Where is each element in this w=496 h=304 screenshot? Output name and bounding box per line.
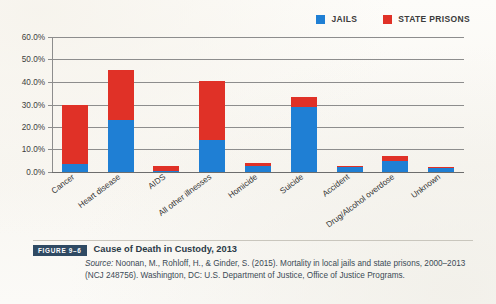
figure-source: Source: Noonan, M., Rohloff, H., & Ginde… bbox=[85, 258, 473, 283]
bar-slot bbox=[189, 37, 235, 172]
chart-legend: JAILS STATE PRISONS bbox=[0, 14, 496, 24]
source-line-1: Noonan, M., Rohloff, H., & Ginder, S. (2… bbox=[113, 259, 371, 268]
x-label-slot: All other illnesses bbox=[189, 174, 235, 222]
bar-segment-state-prisons bbox=[108, 70, 134, 121]
bar-segment-jails bbox=[291, 107, 317, 172]
y-tick bbox=[48, 172, 52, 173]
plot-area: 0.0% 10.0% 20.0% 30.0% 40.0% 50.0% 60.0% bbox=[52, 37, 464, 172]
stacked-bar[interactable] bbox=[199, 81, 225, 172]
x-label-slot: Suicide bbox=[281, 174, 327, 222]
bar-series-layer bbox=[52, 37, 464, 172]
stacked-bar[interactable] bbox=[291, 97, 317, 172]
figure-number-badge: FIGURE 9–6 bbox=[33, 245, 87, 256]
y-tick-label: 10.0% bbox=[22, 145, 45, 154]
bar-slot bbox=[327, 37, 373, 172]
y-tick-label: 60.0% bbox=[22, 33, 45, 42]
y-tick-label: 0.0% bbox=[26, 168, 45, 177]
square-swatch-icon bbox=[383, 15, 392, 24]
legend-label-jails: JAILS bbox=[331, 14, 357, 24]
bar-slot bbox=[372, 37, 418, 172]
x-label-slot: Homicide bbox=[235, 174, 281, 222]
y-tick-label: 30.0% bbox=[22, 100, 45, 109]
y-axis-labels: 0.0% 10.0% 20.0% 30.0% 40.0% 50.0% 60.0% bbox=[5, 37, 49, 172]
bar-segment-state-prisons bbox=[291, 97, 317, 107]
x-label-slot: Unknown bbox=[418, 174, 464, 222]
caption-divider bbox=[33, 240, 473, 241]
bar-slot bbox=[98, 37, 144, 172]
bar-slot bbox=[52, 37, 98, 172]
figure-container: JAILS STATE PRISONS 0.0% 10.0% 20.0% 30.… bbox=[0, 0, 496, 304]
y-tick-label: 20.0% bbox=[22, 122, 45, 131]
square-swatch-icon bbox=[316, 15, 325, 24]
x-label-slot: Heart disease bbox=[98, 174, 144, 222]
bar-segment-state-prisons bbox=[62, 105, 88, 165]
y-tick-label: 40.0% bbox=[22, 77, 45, 86]
figure-caption: FIGURE 9–6 Cause of Death in Custody, 20… bbox=[33, 244, 473, 283]
bar-segment-state-prisons bbox=[199, 81, 225, 140]
x-axis-labels: CancerHeart diseaseAIDSAll other illness… bbox=[52, 174, 464, 222]
stacked-bar[interactable] bbox=[62, 105, 88, 173]
legend-label-state-prisons: STATE PRISONS bbox=[398, 14, 470, 24]
x-label-slot: Drug/Alcohol overdose bbox=[372, 174, 418, 222]
figure-title: Cause of Death in Custody, 2013 bbox=[94, 244, 237, 256]
source-line-3: Justice, Office of Justice Programs. bbox=[277, 271, 405, 280]
y-tick-label: 50.0% bbox=[22, 55, 45, 64]
caption-heading: FIGURE 9–6 Cause of Death in Custody, 20… bbox=[33, 244, 473, 256]
bar-slot bbox=[281, 37, 327, 172]
stacked-bar[interactable] bbox=[108, 70, 134, 172]
legend-item-state-prisons: STATE PRISONS bbox=[383, 14, 470, 24]
source-prefix: Source: bbox=[85, 259, 113, 268]
legend-item-jails: JAILS bbox=[316, 14, 357, 24]
